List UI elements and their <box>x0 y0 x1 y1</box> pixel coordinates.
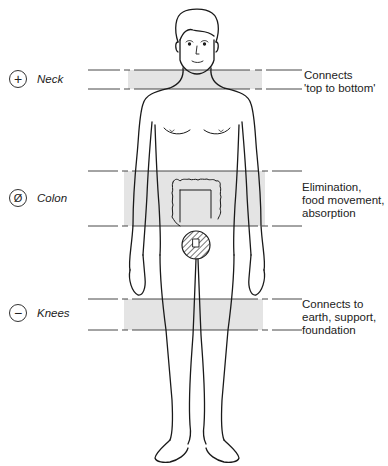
zone-description-colon: Elimination, food movement, absorption <box>302 181 384 220</box>
zone-description-neck: Connects 'top to bottom' <box>304 69 376 95</box>
zone-label-colon: Ø Colon <box>9 189 67 207</box>
zone-description-knees: Connects to earth, support, foundation <box>302 298 376 337</box>
plus-icon: + <box>9 70 27 88</box>
neutral-icon: Ø <box>9 189 27 207</box>
zone-name-knees: Knees <box>37 307 70 319</box>
zone-label-knees: − Knees <box>9 304 70 322</box>
zone-name-neck: Neck <box>37 73 63 85</box>
neck-band <box>128 70 262 89</box>
zone-label-neck: + Neck <box>9 70 63 88</box>
zone-name-colon: Colon <box>37 192 67 204</box>
minus-icon: − <box>9 304 27 322</box>
